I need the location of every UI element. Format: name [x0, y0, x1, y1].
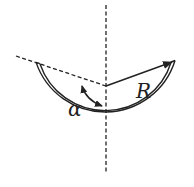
physics-diagram: R α — [0, 0, 194, 187]
angle-label: α — [68, 97, 82, 121]
tilted-axis-dashed — [16, 56, 106, 86]
angle-arrow — [82, 86, 102, 106]
radius-label: R — [135, 79, 151, 103]
